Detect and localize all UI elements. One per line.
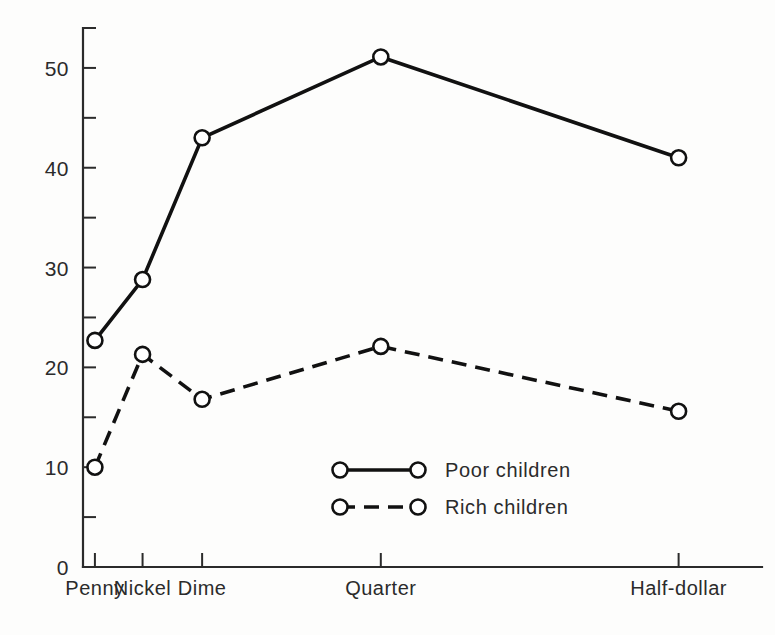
y-axis-tick-label: 0 (57, 556, 69, 579)
data-point-marker (195, 130, 210, 145)
data-point-marker (87, 460, 102, 475)
x-axis-tick-label: Nickel (114, 577, 171, 599)
data-point-marker (671, 150, 686, 165)
y-axis-tick-label: 20 (45, 356, 69, 379)
x-axis-tick-label: Quarter (345, 577, 416, 599)
y-axis-ticks (83, 68, 96, 517)
x-axis-tick-label: Half-dollar (630, 577, 727, 599)
series-path (95, 346, 679, 467)
chart-legend: Poor childrenRich children (333, 459, 571, 518)
legend-label: Poor children (445, 459, 571, 481)
data-point-marker (135, 272, 150, 287)
series-poor-children (87, 49, 686, 347)
series-path (95, 57, 679, 340)
legend-marker-end (411, 500, 426, 515)
chart-container: 01020304050 PennyNickelDimeQuarterHalf-d… (0, 0, 775, 635)
data-point-marker (671, 404, 686, 419)
series-rich-children (87, 339, 686, 475)
data-point-marker (195, 392, 210, 407)
legend-label: Rich children (445, 496, 568, 518)
data-point-marker (373, 49, 388, 64)
legend-marker-start (333, 500, 348, 515)
x-axis-ticks (95, 553, 679, 567)
data-point-marker (87, 333, 102, 348)
legend-marker-start (333, 463, 348, 478)
data-point-marker (135, 347, 150, 362)
y-axis-tick-label: 40 (45, 157, 69, 180)
x-axis-tick-labels: PennyNickelDimeQuarterHalf-dollar (65, 577, 727, 599)
y-axis-tick-labels: 01020304050 (45, 57, 69, 579)
x-axis-tick-label: Dime (178, 577, 227, 599)
data-point-marker (373, 339, 388, 354)
line-chart: 01020304050 PennyNickelDimeQuarterHalf-d… (0, 0, 775, 635)
y-axis-tick-label: 50 (45, 57, 69, 80)
legend-marker-end (411, 463, 426, 478)
y-axis-tick-label: 10 (45, 456, 69, 479)
y-axis-tick-label: 30 (45, 257, 69, 280)
